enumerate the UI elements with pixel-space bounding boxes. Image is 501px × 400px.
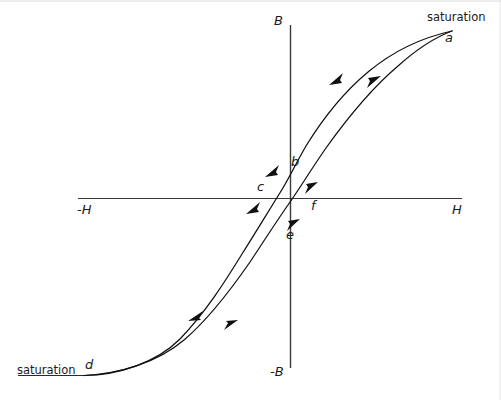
arrow-down-left-2 xyxy=(265,165,279,177)
point-label-e: e xyxy=(286,228,294,241)
descending-branch-curve xyxy=(84,31,452,376)
arrow-up-right-4 xyxy=(367,76,381,88)
direction-arrows-ascending xyxy=(224,76,381,330)
negative-b-axis-label: -B xyxy=(270,365,284,378)
negative-h-axis-label: -H xyxy=(77,203,91,216)
axis-lines xyxy=(78,25,462,368)
hysteresis-plot-canvas xyxy=(0,0,501,400)
h-axis-label: H xyxy=(452,203,462,216)
figure-border xyxy=(0,0,501,400)
saturation-label-bottom: saturation xyxy=(17,365,76,377)
saturation-label-top: saturation xyxy=(427,12,486,24)
point-label-f: f xyxy=(311,199,316,212)
point-label-b: b xyxy=(291,155,299,168)
hysteresis-loop-figure: B -B -H H saturation saturation a b c d … xyxy=(0,0,501,400)
point-label-a: a xyxy=(445,31,453,44)
direction-arrows-descending xyxy=(188,73,343,321)
arrow-up-right-3 xyxy=(305,182,318,194)
point-label-d: d xyxy=(85,358,93,371)
point-label-c: c xyxy=(257,180,264,193)
b-axis-label: B xyxy=(274,14,283,27)
arrow-down-left-1 xyxy=(329,73,343,85)
arrow-up-right-1 xyxy=(224,320,238,330)
ascending-branch-curve xyxy=(84,31,452,376)
arrow-down-left-3 xyxy=(246,202,260,214)
